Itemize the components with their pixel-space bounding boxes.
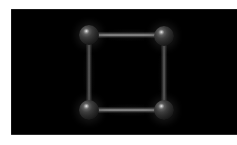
atom-bottom-left[interactable] bbox=[79, 100, 99, 120]
viewport bbox=[0, 0, 237, 145]
atom-bottom-right[interactable] bbox=[154, 100, 174, 120]
bond-right[interactable] bbox=[161, 42, 167, 108]
atom-bottom-right-specular-highlight bbox=[159, 104, 164, 108]
atom-top-right-specular-highlight bbox=[159, 30, 164, 34]
atom-top-left-specular-highlight bbox=[84, 29, 89, 33]
canvas-left-edge bbox=[11, 9, 12, 135]
canvas-top-edge bbox=[11, 9, 237, 10]
canvas-bottom-edge bbox=[11, 134, 237, 135]
atom-bottom-left-specular-highlight bbox=[84, 104, 89, 108]
bond-left[interactable] bbox=[86, 42, 92, 108]
atom-top-right[interactable] bbox=[154, 26, 174, 46]
render-canvas[interactable] bbox=[11, 9, 237, 135]
atom-top-left[interactable] bbox=[79, 25, 99, 45]
